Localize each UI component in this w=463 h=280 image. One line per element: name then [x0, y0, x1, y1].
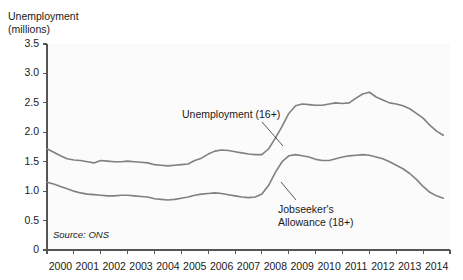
- y-axis-tick-label: 2.0: [13, 125, 39, 137]
- x-axis-tick-label: 2014: [421, 260, 453, 272]
- y-axis-tick-label: 3.5: [13, 37, 39, 49]
- y-axis-tick-label: 1.5: [13, 155, 39, 167]
- source-note: Source: ONS: [53, 229, 109, 240]
- y-axis-tick-label: 0.5: [13, 214, 39, 226]
- series-label-jobseekers-allowance: Jobseeker's Allowance (18+): [278, 203, 354, 228]
- series-label-unemployment: Unemployment (16+): [182, 108, 280, 121]
- y-axis-tick-label: 3.0: [13, 66, 39, 78]
- y-axis-tick-label: 1.0: [13, 184, 39, 196]
- plot-background: [47, 44, 450, 250]
- y-axis-tick-label: 0: [13, 243, 39, 255]
- y-axis-tick-label: 2.5: [13, 96, 39, 108]
- unemployment-chart: Unemployment (millions) 00.51.01.52.02.5…: [0, 0, 463, 280]
